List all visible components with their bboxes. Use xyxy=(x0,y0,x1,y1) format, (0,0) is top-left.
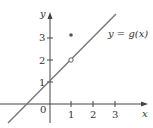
graph-canvas: y x 0 1 2 3 1 2 3 y = g(x) xyxy=(0,0,153,128)
x-axis-arrow-icon xyxy=(141,102,148,107)
y-axis-arrow-icon xyxy=(48,12,53,19)
y-tick-label-3: 3 xyxy=(39,32,45,43)
graph-figure: y x 0 1 2 3 1 2 3 y = g(x) xyxy=(0,0,153,128)
y-axis-label: y xyxy=(39,8,46,19)
y-tick-label-2: 2 xyxy=(39,55,45,66)
x-tick-label-3: 3 xyxy=(112,109,118,120)
x-axis-label: x xyxy=(142,108,148,119)
x-tick-label-2: 2 xyxy=(90,109,96,120)
function-line xyxy=(8,14,116,123)
x-tick-label-1: 1 xyxy=(68,109,74,120)
y-tick-label-1: 1 xyxy=(39,77,45,88)
filled-point xyxy=(69,33,73,37)
open-point xyxy=(69,58,73,62)
function-label: y = g(x) xyxy=(107,28,148,39)
origin-label: 0 xyxy=(40,104,46,115)
